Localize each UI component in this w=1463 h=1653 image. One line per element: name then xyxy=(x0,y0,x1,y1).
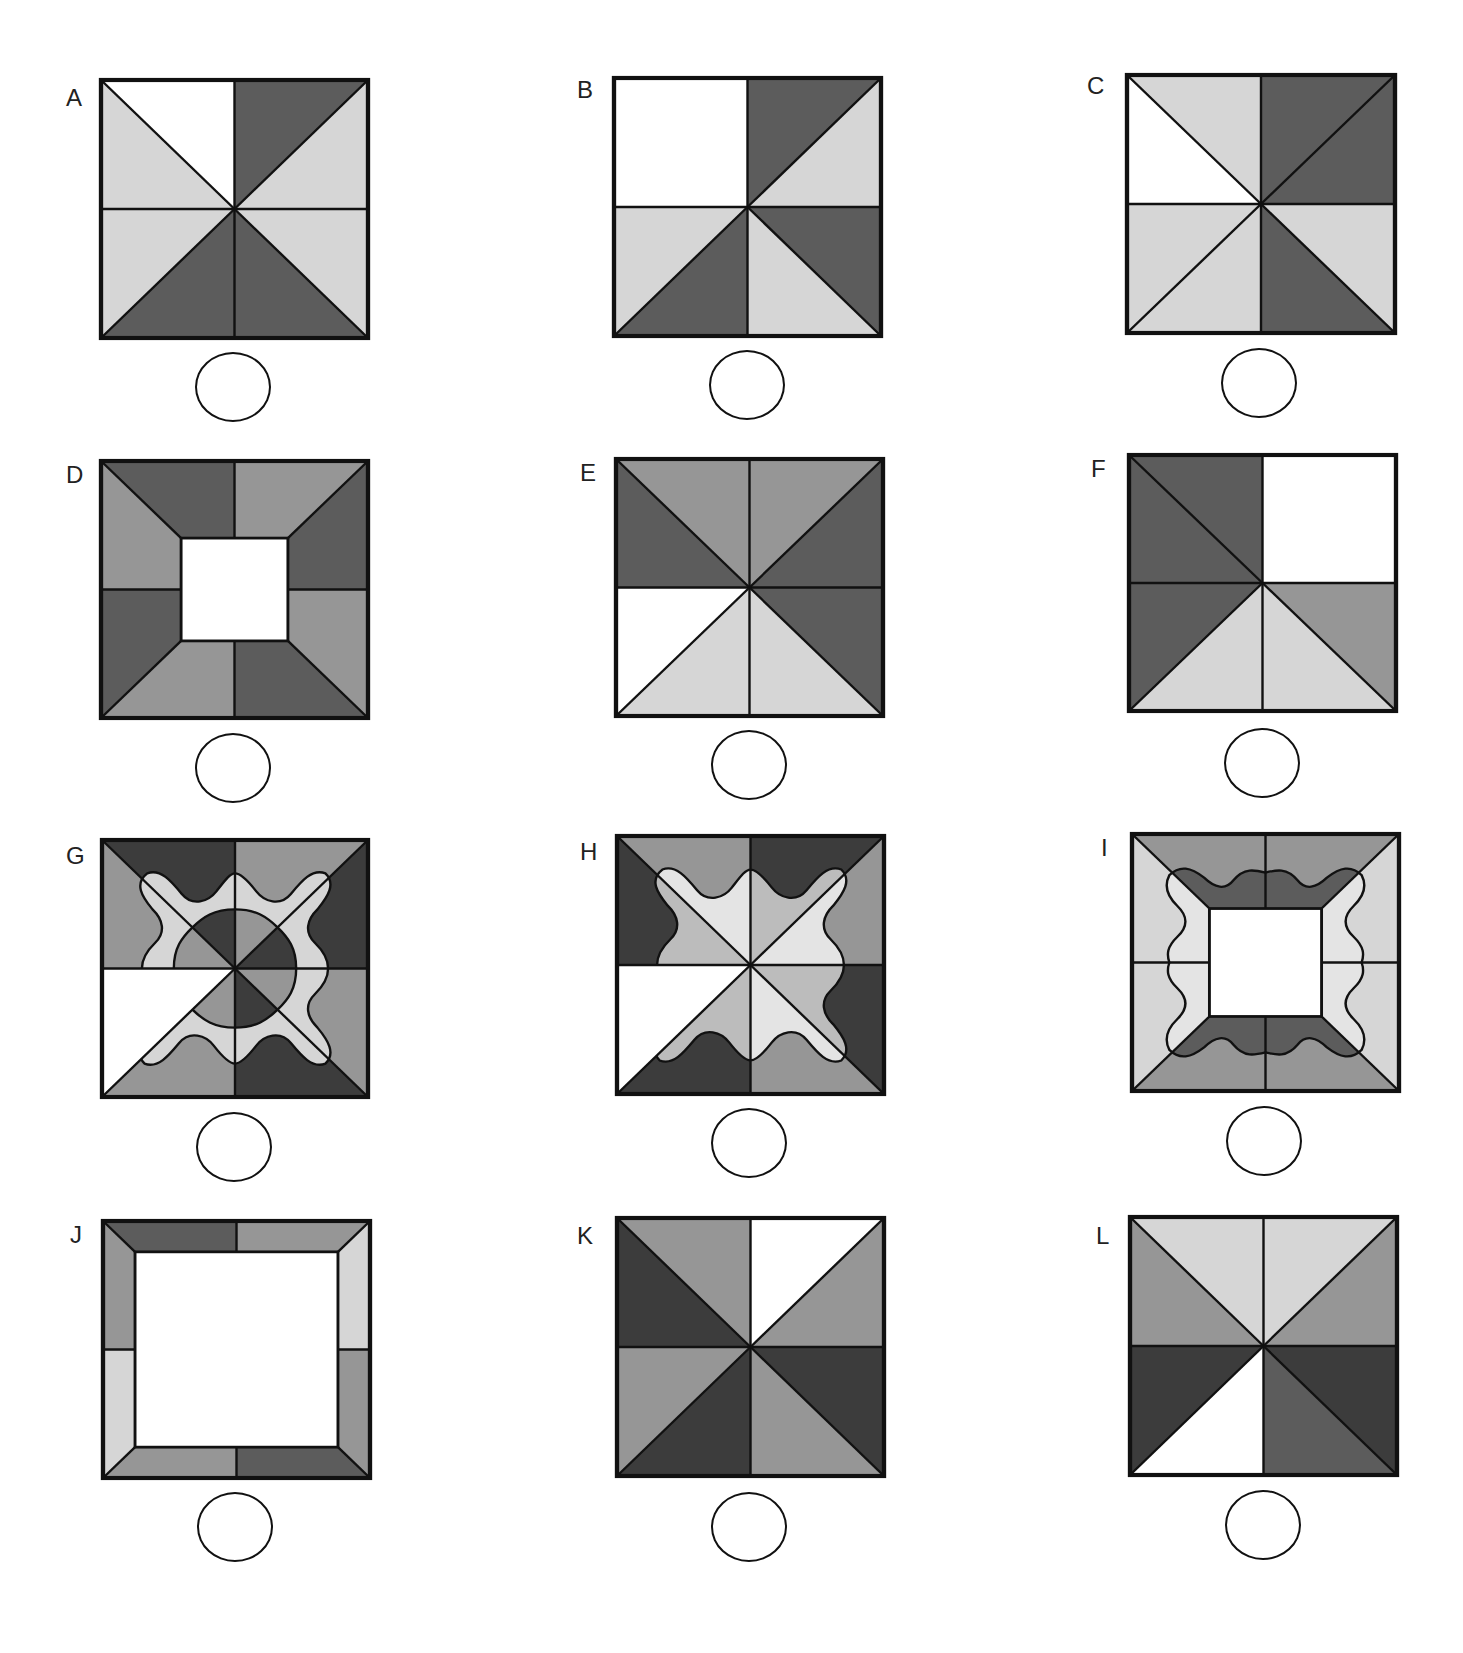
answer-bubble-c[interactable] xyxy=(1221,348,1297,418)
answer-bubble-d[interactable] xyxy=(195,733,271,803)
option-label: G xyxy=(66,842,85,870)
answer-bubble-a[interactable] xyxy=(195,352,271,422)
answer-bubble-f[interactable] xyxy=(1224,728,1300,798)
option-label: B xyxy=(577,76,593,104)
quilt-block-figure xyxy=(102,840,368,1097)
answer-bubble-e[interactable] xyxy=(711,730,787,800)
quilt-block-figure xyxy=(617,1218,884,1476)
option-label: I xyxy=(1101,834,1108,862)
answer-bubble-b[interactable] xyxy=(709,350,785,420)
answer-bubble-j[interactable] xyxy=(197,1492,273,1562)
answer-bubble-g[interactable] xyxy=(196,1112,272,1182)
answer-bubble-l[interactable] xyxy=(1225,1490,1301,1560)
cropped-header-text xyxy=(120,0,1220,4)
quilt-block-figure xyxy=(1127,75,1395,333)
answer-bubble-h[interactable] xyxy=(711,1108,787,1178)
quilt-block-figure xyxy=(101,461,368,718)
option-label: C xyxy=(1087,72,1104,100)
quilt-block-figure xyxy=(101,80,368,338)
option-label: L xyxy=(1096,1222,1109,1250)
quilt-block-figure xyxy=(617,836,884,1094)
answer-bubble-i[interactable] xyxy=(1226,1106,1302,1176)
option-label: F xyxy=(1091,455,1106,483)
quilt-block-figure xyxy=(1129,455,1396,711)
quilt-block-figure xyxy=(1132,834,1399,1091)
option-label: H xyxy=(580,838,597,866)
option-label: D xyxy=(66,461,83,489)
quilt-block-figure xyxy=(103,1221,370,1478)
answer-bubble-k[interactable] xyxy=(711,1492,787,1562)
quilt-block-figure xyxy=(616,459,883,716)
option-label: A xyxy=(66,84,82,112)
option-label: J xyxy=(70,1221,82,1249)
quilt-block-figure xyxy=(614,78,881,336)
option-label: E xyxy=(580,459,596,487)
option-label: K xyxy=(577,1222,593,1250)
quilt-block-figure xyxy=(1130,1217,1397,1475)
